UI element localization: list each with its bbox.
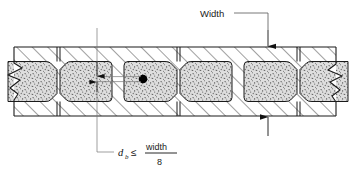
formula-variable-d: d (118, 147, 124, 158)
formula-denominator-8: 8 (157, 157, 162, 167)
grouted-cell (300, 62, 348, 102)
formula-numerator-width: width (145, 142, 167, 152)
formula-relation-lte: ≤ (131, 147, 137, 158)
grouted-cell (180, 62, 232, 102)
width-label: Width (200, 8, 224, 19)
formula-subscript-b: b (125, 153, 129, 161)
bar-diameter-formula: d b ≤ width 8 (118, 142, 177, 167)
rebar-dot-icon (139, 75, 148, 84)
figure-canvas: Width d b ≤ width 8 (0, 0, 355, 178)
masonry-wall-section-diagram: Width d b ≤ width 8 (0, 0, 355, 178)
width-label-leader (234, 13, 268, 30)
grouted-cell (244, 62, 297, 102)
